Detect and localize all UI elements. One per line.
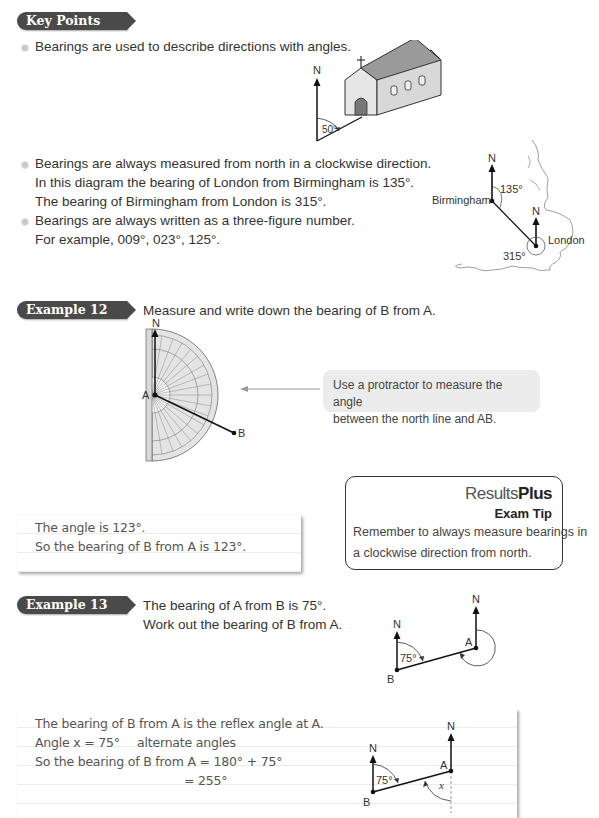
key-point-3-line-2: For example, 009°, 023°, 125°.: [35, 230, 220, 249]
map-city-birmingham: Birmingham: [432, 194, 491, 206]
key-point-2-line-2: In this diagram the bearing of London fr…: [35, 173, 414, 192]
key-points-tag: Key Points: [17, 12, 127, 30]
callout-line-2: between the north line and AB.: [333, 411, 530, 428]
answer-12-line-1: The angle is 123°.: [35, 518, 145, 537]
ex13-angle-75: 75°: [400, 652, 417, 664]
map-angle-135: 135°: [500, 183, 523, 195]
exam-tip-line-1: Remember to always measure bearings in: [353, 525, 587, 539]
bullet-icon: [21, 44, 29, 52]
bullet-icon: [21, 218, 29, 226]
example-13-label: Example 13: [26, 597, 108, 612]
exam-tip-box: ResultsPlus Exam Tip Remember to always …: [345, 476, 563, 570]
ans13-north-b: N: [369, 742, 377, 754]
results-plus-regular: Results: [465, 484, 518, 503]
example-13-diagram: N N 75° A B: [370, 585, 550, 695]
callout-line-1: Use a protractor to measure the angle: [333, 377, 530, 411]
ex13-point-b: B: [387, 673, 394, 685]
answer-13-diagram: N N 75° x A B: [357, 709, 497, 818]
ex13-point-a: A: [465, 636, 473, 648]
church-angle-label: 50°: [322, 124, 337, 135]
answer-13-line-2a: Angle x = 75°: [35, 733, 120, 752]
point-b-label: B: [238, 427, 245, 439]
results-plus-logo: ResultsPlus: [465, 484, 552, 504]
answer-13-line-2b: alternate angles: [137, 733, 236, 752]
protractor-north-label: N: [152, 317, 160, 329]
example-12-answer: The angle is 123°. So the bearing of B f…: [17, 515, 301, 572]
example-12-label: Example 12: [26, 302, 108, 317]
key-points-label: Key Points: [26, 13, 100, 28]
ans13-angle-x: x: [438, 779, 444, 791]
ans13-north-a: N: [447, 720, 455, 732]
key-point-2-line-1: Bearings are always measured from north …: [35, 154, 431, 173]
church-north-label: N: [313, 64, 321, 76]
ans13-point-b: B: [363, 796, 370, 808]
results-plus-bold: Plus: [518, 484, 552, 503]
answer-13-line-1: The bearing of B from A is the reflex an…: [35, 714, 324, 733]
example-13-answer: The bearing of B from A is the reflex an…: [17, 709, 517, 818]
protractor-callout: Use a protractor to measure the angle be…: [323, 370, 540, 412]
example-13-question-1: The bearing of A from B is 75°.: [143, 596, 326, 615]
key-point-3-line-1: Bearings are always written as a three-f…: [35, 211, 355, 230]
exam-tip-line-2: a clockwise direction from north.: [353, 546, 532, 560]
ans13-point-a: A: [440, 759, 448, 771]
answer-13-line-4: = 255°: [184, 771, 227, 790]
point-a-label: A: [142, 389, 150, 401]
ex13-north-b: N: [393, 618, 401, 630]
map-north-label-1: N: [488, 152, 496, 164]
exam-tip-title: Exam Tip: [494, 506, 552, 521]
example-12-tag: Example 12: [17, 301, 127, 319]
answer-13-line-3: So the bearing of B from A = 180° + 75°: [35, 752, 282, 771]
answer-12-line-2: So the bearing of B from A is 123°.: [35, 537, 246, 556]
bullet-icon: [21, 161, 29, 169]
ans13-angle-75: 75°: [376, 774, 393, 786]
callout-arrow: [240, 385, 320, 393]
key-point-2-line-3: The bearing of Birmingham from London is…: [35, 192, 326, 211]
map-north-label-2: N: [532, 205, 540, 217]
map-angle-315: 315°: [503, 250, 526, 262]
map-city-london: London: [548, 234, 585, 246]
example-13-tag: Example 13: [17, 596, 127, 614]
birmingham-london-map: N N 135° Birmingham London 315°: [420, 120, 599, 290]
example-13-question-2: Work out the bearing of B from A.: [143, 615, 342, 634]
ex13-north-a: N: [472, 593, 480, 605]
